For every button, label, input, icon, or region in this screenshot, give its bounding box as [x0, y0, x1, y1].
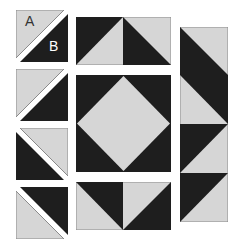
- hst-unit-4: [16, 187, 68, 239]
- hst-unit-3: [16, 128, 68, 180]
- hst-unit-2: [16, 69, 68, 121]
- right-strip: [180, 27, 228, 222]
- label-a: A: [25, 13, 34, 29]
- center-square-in-square: [76, 75, 171, 172]
- center-top-geese: [76, 17, 171, 65]
- label-b: B: [49, 38, 58, 54]
- center-bottom-geese: [76, 182, 171, 230]
- hst-unit-1-labeled: [16, 10, 68, 62]
